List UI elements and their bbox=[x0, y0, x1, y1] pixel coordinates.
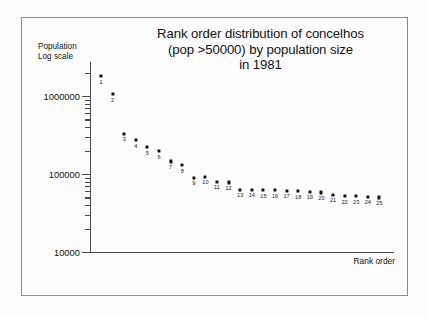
y-tick-minor bbox=[85, 215, 90, 216]
data-point[interactable] bbox=[250, 188, 253, 191]
data-point-label: 25 bbox=[376, 200, 382, 206]
data-point[interactable] bbox=[192, 176, 195, 179]
data-point[interactable] bbox=[262, 189, 265, 192]
data-point[interactable] bbox=[239, 188, 242, 191]
data-point-label: 15 bbox=[260, 193, 266, 199]
y-tick-minor bbox=[85, 108, 90, 109]
y-axis-caption-line-2: Log scale bbox=[38, 52, 77, 62]
y-tick-minor bbox=[85, 182, 90, 183]
data-point-label: 10 bbox=[202, 179, 208, 185]
data-point[interactable] bbox=[215, 180, 218, 183]
y-axis-caption: Population Log scale bbox=[38, 42, 77, 62]
data-point[interactable] bbox=[204, 175, 207, 178]
data-point-label: 2 bbox=[111, 97, 114, 103]
y-tick-major bbox=[82, 174, 91, 175]
data-point-label: 16 bbox=[272, 193, 278, 199]
data-point[interactable] bbox=[157, 150, 160, 153]
data-point-label: 17 bbox=[283, 193, 289, 199]
data-point-label: 7 bbox=[169, 164, 172, 170]
y-tick-minor bbox=[85, 205, 90, 206]
y-tick-minor bbox=[85, 113, 90, 114]
y-tick-label: 100000 bbox=[22, 169, 80, 180]
figure-frame: Rank order distribution of concelhos (po… bbox=[21, 17, 408, 296]
data-point-label: 12 bbox=[225, 185, 231, 191]
y-tick-minor bbox=[85, 191, 90, 192]
data-point[interactable] bbox=[181, 164, 184, 167]
data-point[interactable] bbox=[366, 195, 369, 198]
data-point[interactable] bbox=[146, 146, 149, 149]
data-point-label: 19 bbox=[307, 194, 313, 200]
y-tick-minor bbox=[85, 119, 90, 120]
y-axis-caption-line-1: Population bbox=[38, 42, 77, 52]
y-tick-major bbox=[82, 96, 91, 97]
chart-title: Rank order distribution of concelhos (po… bbox=[118, 26, 403, 73]
data-point[interactable] bbox=[308, 190, 311, 193]
y-tick-label: 10000 bbox=[22, 247, 80, 258]
chart-title-line-1: Rank order distribution of concelhos bbox=[118, 26, 403, 42]
data-point[interactable] bbox=[343, 195, 346, 198]
y-tick-minor bbox=[85, 151, 90, 152]
data-point-label: 20 bbox=[318, 195, 324, 201]
data-point[interactable] bbox=[320, 191, 323, 194]
data-point-label: 3 bbox=[123, 136, 126, 142]
y-tick-minor bbox=[85, 104, 90, 105]
data-point-label: 5 bbox=[146, 150, 149, 156]
data-point[interactable] bbox=[169, 160, 172, 163]
y-tick-minor bbox=[85, 197, 90, 198]
data-point-label: 18 bbox=[295, 194, 301, 200]
plot-area: Rank order distribution of concelhos (po… bbox=[22, 18, 409, 297]
data-point-label: 4 bbox=[134, 143, 137, 149]
data-point[interactable] bbox=[134, 139, 137, 142]
y-tick-minor bbox=[85, 100, 90, 101]
data-point-label: 1 bbox=[99, 79, 102, 85]
x-axis-line bbox=[90, 252, 394, 253]
data-point[interactable] bbox=[227, 181, 230, 184]
data-point[interactable] bbox=[273, 189, 276, 192]
data-point[interactable] bbox=[123, 132, 126, 135]
data-point-label: 13 bbox=[237, 192, 243, 198]
data-point-label: 14 bbox=[249, 192, 255, 198]
data-point-label: 8 bbox=[181, 168, 184, 174]
data-point-label: 9 bbox=[192, 180, 195, 186]
data-point-label: 23 bbox=[353, 199, 359, 205]
data-point[interactable] bbox=[297, 190, 300, 193]
x-axis-caption: Rank order bbox=[354, 256, 395, 266]
data-point-label: 21 bbox=[330, 197, 336, 203]
data-point[interactable] bbox=[99, 75, 102, 78]
data-point[interactable] bbox=[285, 189, 288, 192]
data-point[interactable] bbox=[355, 195, 358, 198]
y-tick-minor bbox=[85, 186, 90, 187]
figure-canvas: Rank order distribution of concelhos (po… bbox=[0, 0, 427, 318]
y-tick-minor bbox=[85, 127, 90, 128]
y-axis-line bbox=[90, 62, 91, 253]
data-point-label: 6 bbox=[157, 154, 160, 160]
chart-title-line-3: in 1981 bbox=[118, 57, 403, 73]
y-tick-label: 1000000 bbox=[22, 91, 80, 102]
data-point[interactable] bbox=[331, 193, 334, 196]
data-point[interactable] bbox=[111, 93, 114, 96]
y-tick-minor bbox=[85, 229, 90, 230]
y-tick-minor bbox=[85, 178, 90, 179]
chart-title-line-2: (pop >50000) by population size bbox=[118, 42, 403, 58]
data-point-label: 22 bbox=[341, 199, 347, 205]
data-point-label: 11 bbox=[214, 184, 220, 190]
y-tick-minor bbox=[85, 73, 90, 74]
data-point[interactable] bbox=[378, 196, 381, 199]
y-tick-minor bbox=[85, 137, 90, 138]
y-tick-major bbox=[82, 252, 91, 253]
data-point-label: 24 bbox=[365, 199, 371, 205]
